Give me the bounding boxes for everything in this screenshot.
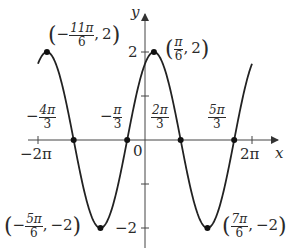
key-point	[231, 137, 237, 143]
y-tick-label-2: 2	[128, 45, 138, 60]
key-point	[97, 225, 103, 231]
y-axis-label: y	[131, 5, 139, 20]
key-point	[204, 225, 210, 231]
point-label-7pi-6: (7π6, −2)	[222, 213, 287, 239]
key-point	[44, 49, 50, 55]
zero-label-5pi-3: 5π3	[208, 104, 226, 130]
origin-label: 0	[133, 144, 143, 159]
key-point	[151, 49, 157, 55]
zero-label-2pi-3: 2π3	[151, 104, 169, 130]
key-point	[178, 137, 184, 143]
key-point	[124, 137, 130, 143]
key-point	[71, 137, 77, 143]
zero-label-neg-4pi-3: −4π3	[26, 104, 56, 130]
x-tick-label-2pi: 2π	[240, 147, 259, 162]
point-label-neg-11pi-6: (−11π6, 2)	[48, 22, 120, 48]
zero-label-neg-pi-3: −π3	[100, 104, 122, 130]
point-label-pi-6: (π6, 2)	[165, 36, 209, 62]
y-tick-label-neg-2: −2	[115, 221, 137, 236]
x-axis-label: x	[275, 146, 283, 161]
x-tick-label-neg-2pi: −2π	[20, 147, 52, 162]
point-label-neg-5pi-6: (−5π6, −2)	[4, 213, 81, 239]
